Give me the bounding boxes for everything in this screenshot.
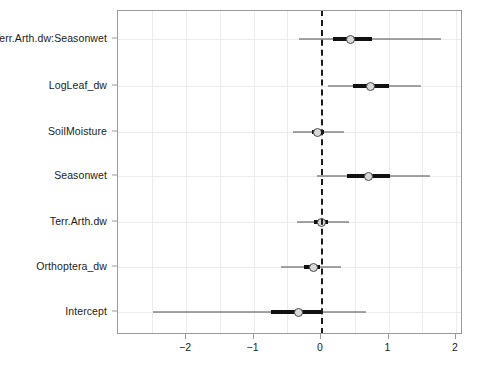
x-axis-tick <box>185 334 186 339</box>
horizontal-gridline <box>118 222 461 223</box>
estimate-point <box>294 308 303 317</box>
x-axis-tick <box>320 334 321 339</box>
coefficient-forest-plot: Terr.Arth.dw:SeasonwetLogLeaf_dwSoilMois… <box>0 0 482 365</box>
vertical-gridline <box>287 11 288 333</box>
estimate-point <box>346 35 355 44</box>
vertical-gridline <box>355 11 356 333</box>
vertical-gridline <box>389 11 390 333</box>
x-axis-tick <box>253 334 254 339</box>
horizontal-gridline <box>118 132 461 133</box>
estimate-point <box>366 82 375 91</box>
estimate-point <box>309 263 318 272</box>
plot-inner <box>118 11 461 333</box>
y-axis-tick-label: Orthoptera_dw <box>36 260 107 272</box>
x-axis-tick-label: 1 <box>385 341 391 353</box>
vertical-gridline <box>152 11 153 333</box>
estimate-point <box>364 172 373 181</box>
y-axis-tick-label: LogLeaf_dw <box>49 79 107 91</box>
x-axis-tick-label: 0 <box>317 341 323 353</box>
plot-area <box>117 10 462 334</box>
y-axis-tick-label: SoilMoisture <box>48 125 107 137</box>
x-axis-tick-label: −1 <box>247 341 259 353</box>
x-axis-tick <box>455 334 456 339</box>
vertical-gridline <box>186 11 187 333</box>
vertical-gridline <box>422 11 423 333</box>
y-axis-tick-label: Intercept <box>65 305 107 317</box>
x-axis-tick-label: 2 <box>452 341 458 353</box>
outer-confidence-interval <box>153 312 366 313</box>
vertical-gridline <box>220 11 221 333</box>
y-axis-tick-label: Terr.Arth.dw <box>50 215 107 227</box>
zero-reference-line <box>321 11 323 333</box>
vertical-gridline <box>456 11 457 333</box>
y-axis-tick-label: Terr.Arth.dw:Seasonwet <box>0 32 107 44</box>
vertical-gridline <box>254 11 255 333</box>
x-axis-tick <box>388 334 389 339</box>
x-axis-tick-label: −2 <box>179 341 191 353</box>
y-axis-tick-label: Seasonwet <box>54 169 107 181</box>
